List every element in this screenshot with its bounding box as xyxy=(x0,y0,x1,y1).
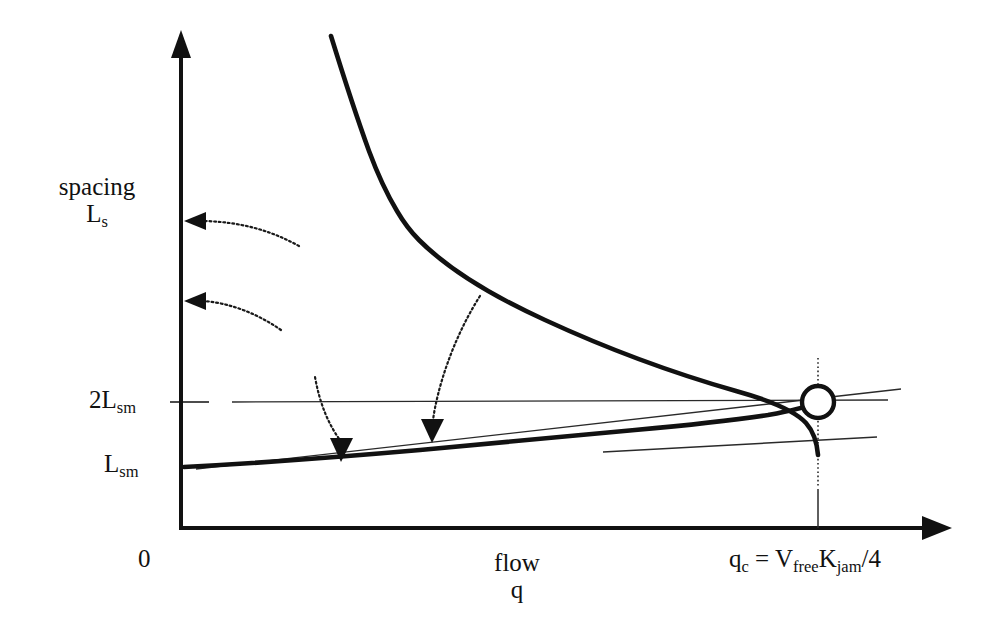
arrow-to-yaxis-upper-head-icon xyxy=(184,212,206,230)
y-tick-label-2lsm-sub: sm xyxy=(117,398,136,417)
x-axis-label: flow q xyxy=(462,549,572,603)
axes-group xyxy=(171,30,952,540)
x-axis-label-line1: flow xyxy=(494,549,540,576)
critical-flow-q-base: q xyxy=(729,545,742,572)
critical-flow-v-sub: free xyxy=(793,557,819,576)
curve-upper-congested-branch xyxy=(331,36,818,455)
curve-lower-freeflow-branch xyxy=(184,404,812,467)
y-axis-label: spacing Ls xyxy=(34,173,160,230)
y-tick-label-2lsm: 2Lsm xyxy=(89,386,136,416)
critical-flow-k-sub: jam xyxy=(837,557,862,576)
origin-label: 0 xyxy=(138,545,151,572)
y-axis-arrowhead-icon xyxy=(171,30,191,58)
arrow-down-right-head-icon xyxy=(421,419,444,443)
y-axis-label-line2: Ls xyxy=(34,200,160,230)
arrow-to-yaxis-lower-head-icon xyxy=(184,292,206,310)
reference-lines-group xyxy=(232,358,888,528)
critical-flow-k-base: K xyxy=(819,545,837,572)
arrow-down-left-path xyxy=(315,377,340,440)
critical-flow-v-base: V xyxy=(775,545,793,572)
y-tick-label-lsm-sub: sm xyxy=(119,462,138,481)
critical-flow-equals: = xyxy=(749,545,775,572)
y-axis-label-line1: spacing xyxy=(59,173,135,200)
critical-point-marker xyxy=(802,386,834,418)
y-axis-label-sub: s xyxy=(101,212,107,231)
critical-flow-q-sub: c xyxy=(742,557,749,576)
critical-flow-annotation: qc = VfreeKjam/4 xyxy=(729,545,881,575)
critical-flow-divisor: /4 xyxy=(862,545,881,572)
x-axis-arrowhead-icon xyxy=(922,516,952,540)
secant-line-critical xyxy=(603,437,877,452)
y-tick-label-2lsm-base: 2L xyxy=(89,386,117,413)
arrow-to-yaxis-lower-path xyxy=(204,301,281,330)
annotation-arrows-group xyxy=(184,212,480,462)
x-axis-label-line2: q xyxy=(462,576,572,603)
y-tick-label-lsm: Lsm xyxy=(104,450,139,480)
arrow-to-yaxis-upper-path xyxy=(204,221,299,246)
y-tick-label-lsm-base: L xyxy=(104,450,119,477)
y-axis-label-base: L xyxy=(86,200,101,227)
